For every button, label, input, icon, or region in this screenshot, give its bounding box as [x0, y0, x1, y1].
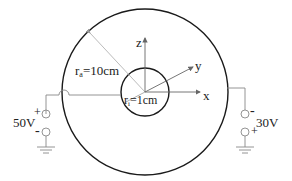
- x-axis-label: x: [203, 88, 210, 103]
- left-ground-icon: [37, 147, 55, 153]
- y-axis-label: y: [195, 58, 202, 73]
- left-bottom-sign: -: [35, 123, 40, 138]
- right-positive-terminal: [241, 128, 249, 136]
- left-voltage-label: 50V: [13, 115, 36, 130]
- right-negative-terminal: [241, 110, 249, 118]
- left-negative-terminal: [42, 128, 50, 136]
- right-voltage-label: 30V: [256, 115, 279, 130]
- right-ground-icon: [236, 147, 254, 153]
- right-top-sign: -: [250, 103, 255, 118]
- outer-radius-label: ra=10cm: [75, 63, 119, 79]
- left-wire: [46, 90, 121, 114]
- spherical-capacitor-diagram: ra=10cm ri=1cm z y x + - 50V - + 30V: [0, 0, 292, 181]
- inner-radius-label: ri=1cm: [124, 93, 158, 108]
- right-wire: [227, 88, 245, 110]
- z-axis-label: z: [136, 35, 142, 50]
